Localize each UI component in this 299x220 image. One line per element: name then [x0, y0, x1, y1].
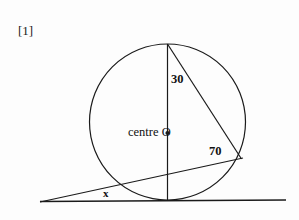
tangent-line — [40, 200, 286, 202]
angle-x-label: x — [103, 188, 109, 199]
chord-line — [168, 44, 242, 159]
question-number-label: [1] — [18, 24, 33, 37]
angle-30-label: 30 — [171, 73, 184, 86]
geometry-canvas — [0, 0, 299, 220]
centre-o-label: centre O — [128, 126, 171, 139]
geometry-figure: [1] 30 centre O 70 x — [0, 0, 299, 220]
angle-70-label: 70 — [209, 145, 222, 158]
